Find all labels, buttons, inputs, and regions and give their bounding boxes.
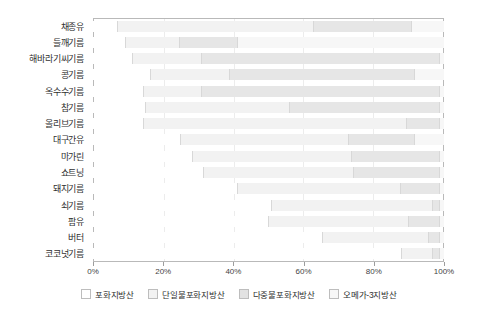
bar-segment[interactable]: [440, 86, 444, 97]
bar-segment[interactable]: [93, 248, 402, 259]
stacked-bar[interactable]: [93, 151, 444, 162]
bar-row[interactable]: [93, 99, 444, 115]
bar-segment[interactable]: [407, 118, 440, 129]
bar-segment[interactable]: [93, 232, 323, 243]
bar-segment[interactable]: [415, 69, 444, 80]
bar-segment[interactable]: [440, 151, 444, 162]
bar-segment[interactable]: [440, 216, 444, 227]
stacked-bar[interactable]: [93, 69, 444, 80]
bar-segment[interactable]: [429, 232, 440, 243]
bar-row[interactable]: [93, 67, 444, 83]
stacked-bar[interactable]: [93, 183, 444, 194]
bar-segment[interactable]: [144, 118, 407, 129]
bar-segment[interactable]: [323, 232, 429, 243]
bar-segment[interactable]: [93, 216, 269, 227]
bar-segment[interactable]: [151, 69, 231, 80]
bar-row[interactable]: [93, 83, 444, 99]
bar-segment[interactable]: [440, 248, 444, 259]
bar-row[interactable]: [93, 164, 444, 180]
bar-segment[interactable]: [93, 183, 238, 194]
bar-segment[interactable]: [412, 21, 444, 32]
stacked-bar[interactable]: [93, 200, 444, 211]
bar-segment[interactable]: [204, 167, 354, 178]
stacked-bar[interactable]: [93, 102, 444, 113]
bar-segment[interactable]: [354, 167, 440, 178]
bar-row[interactable]: [93, 34, 444, 50]
bar-segment[interactable]: [238, 183, 401, 194]
bar-segment[interactable]: [93, 21, 118, 32]
bar-segment[interactable]: [401, 183, 440, 194]
bar-segment[interactable]: [93, 69, 151, 80]
bar-segment[interactable]: [440, 53, 444, 64]
legend-item[interactable]: 포화지방산: [81, 288, 134, 300]
bar-row[interactable]: [93, 229, 444, 245]
bar-segment[interactable]: [126, 37, 180, 48]
stacked-bar[interactable]: [93, 86, 444, 97]
bar-row[interactable]: [93, 51, 444, 67]
legend-item[interactable]: 오메가-3지방산: [329, 288, 397, 300]
bar-segment[interactable]: [93, 118, 144, 129]
bar-segment[interactable]: [181, 134, 349, 145]
bar-segment[interactable]: [440, 232, 444, 243]
bar-row[interactable]: [93, 148, 444, 164]
bar-segment[interactable]: [314, 21, 412, 32]
bar-segment[interactable]: [349, 134, 415, 145]
bar-segment[interactable]: [133, 53, 202, 64]
bar-segment[interactable]: [93, 37, 126, 48]
bar-segment[interactable]: [180, 37, 238, 48]
bar-segment[interactable]: [93, 200, 272, 211]
stacked-bar[interactable]: [93, 118, 444, 129]
y-axis-label: 채종유: [0, 18, 88, 34]
chart-legend: 포화지방산단일불포화지방산다중불포화지방산오메가-3지방산: [0, 288, 478, 300]
bar-segment[interactable]: [272, 200, 433, 211]
y-axis-label: 대구간유: [0, 132, 88, 148]
bar-row[interactable]: [93, 246, 444, 262]
stacked-bar[interactable]: [93, 216, 444, 227]
legend-item[interactable]: 다중불포화지방산: [239, 288, 315, 300]
bar-segment[interactable]: [93, 53, 133, 64]
bar-segment[interactable]: [440, 167, 444, 178]
stacked-bar[interactable]: [93, 248, 444, 259]
bar-segment[interactable]: [440, 183, 444, 194]
bar-segment[interactable]: [415, 134, 444, 145]
bar-segment[interactable]: [193, 151, 352, 162]
bar-segment[interactable]: [93, 86, 144, 97]
bar-row[interactable]: [93, 132, 444, 148]
bar-segment[interactable]: [202, 86, 440, 97]
stacked-bar[interactable]: [93, 232, 444, 243]
bar-segment[interactable]: [290, 102, 441, 113]
bar-segment[interactable]: [93, 102, 146, 113]
bar-segment[interactable]: [440, 102, 444, 113]
bar-row[interactable]: [93, 213, 444, 229]
bar-segment[interactable]: [402, 248, 432, 259]
bar-segment[interactable]: [93, 167, 204, 178]
bar-segment[interactable]: [433, 248, 441, 259]
bar-segment[interactable]: [409, 216, 441, 227]
bar-row[interactable]: [93, 197, 444, 213]
bar-row[interactable]: [93, 18, 444, 34]
bar-segment[interactable]: [93, 134, 181, 145]
stacked-bar[interactable]: [93, 53, 444, 64]
bar-segment[interactable]: [433, 200, 440, 211]
bar-segment[interactable]: [202, 53, 441, 64]
bar-segment[interactable]: [269, 216, 409, 227]
bar-segment[interactable]: [93, 151, 193, 162]
bar-segment[interactable]: [238, 37, 444, 48]
bar-segment[interactable]: [118, 21, 315, 32]
bar-segment[interactable]: [440, 118, 444, 129]
legend-item[interactable]: 단일불포화지방산: [148, 288, 224, 300]
bar-segment[interactable]: [352, 151, 441, 162]
bar-row[interactable]: [93, 116, 444, 132]
y-axis-labels: 채종유들깨기름해바라기씨기름콩기름옥수수기름참기름올리브기름대구간유마가린쇼트닝…: [0, 18, 88, 262]
bar-segment[interactable]: [144, 86, 203, 97]
bar-segment[interactable]: [230, 69, 415, 80]
stacked-bar[interactable]: [93, 167, 444, 178]
bar-row[interactable]: [93, 181, 444, 197]
bar-segment[interactable]: [440, 200, 444, 211]
y-axis-label: 쇠기름: [0, 197, 88, 213]
stacked-bar[interactable]: [93, 21, 444, 32]
stacked-bar[interactable]: [93, 37, 444, 48]
stacked-bar[interactable]: [93, 134, 444, 145]
y-axis-label: 참기름: [0, 99, 88, 115]
bar-segment[interactable]: [146, 102, 290, 113]
